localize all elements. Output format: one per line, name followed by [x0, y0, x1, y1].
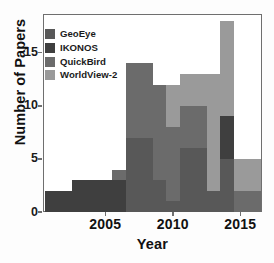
bar-segment-ikonos-2003 [72, 180, 86, 212]
bar-2011 [180, 74, 194, 212]
x-tick-label-2015: 2015 [224, 216, 256, 232]
bar-segment-quickbird-2009 [153, 85, 167, 181]
y-tick-mark-15 [38, 52, 42, 54]
bar-segment-worldview-2-2016 [247, 159, 261, 191]
bar-segment-geoeye-2007 [126, 138, 140, 212]
legend-item-label: IKONOS [60, 43, 98, 53]
bar-2001 [45, 191, 59, 212]
bar-2004 [85, 180, 99, 212]
bar-segment-geoeye-2012 [193, 148, 207, 212]
x-tick-mark-2010 [172, 212, 174, 216]
bar-2003 [72, 180, 86, 212]
x-axis-title: Year [43, 236, 262, 252]
legend-item-worldview-2[interactable]: WorldView-2 [45, 69, 117, 81]
y-tick-mark-10 [38, 105, 42, 107]
legend-item-geoeye[interactable]: GeoEye [45, 28, 117, 40]
x-tick-mark-2015 [240, 212, 242, 216]
legend-swatch-icon [45, 70, 55, 80]
bar-2007 [126, 63, 140, 212]
bar-segment-geoeye-2013 [207, 191, 221, 212]
bar-2015 [234, 159, 248, 212]
legend-item-label: WorldView-2 [60, 70, 117, 80]
bar-segment-geoeye-2014 [220, 159, 234, 212]
bar-segment-quickbird-2011 [180, 106, 194, 148]
bar-segment-ikonos-2005 [99, 180, 113, 212]
bar-segment-worldview-2-2011 [180, 74, 194, 106]
bar-segment-geoeye-2010 [166, 201, 180, 212]
bar-segment-ikonos-2002 [58, 191, 72, 212]
bar-2016 [247, 159, 261, 212]
legend: GeoEyeIKONOSQuickBirdWorldView-2 [45, 28, 117, 83]
legend-swatch-icon [45, 43, 55, 53]
bar-segment-worldview-2-2013 [207, 74, 221, 191]
bar-segment-ikonos-2001 [45, 191, 59, 212]
bar-segment-geoeye-2009 [153, 180, 167, 212]
bar-segment-quickbird-2008 [139, 63, 153, 137]
legend-item-label: QuickBird [60, 57, 106, 67]
x-tick-label-2005: 2005 [89, 216, 121, 232]
bar-segment-ikonos-2006 [112, 180, 126, 212]
bar-segment-geoeye-2008 [139, 138, 153, 212]
y-axis-title: Number of Papers [12, 2, 28, 162]
bar-segment-quickbird-2007 [126, 63, 140, 137]
bar-2005 [99, 180, 113, 212]
y-tick-mark-5 [38, 158, 42, 160]
bar-segment-worldview-2-2012 [193, 74, 207, 106]
bar-segment-quickbird-2010 [166, 127, 180, 201]
x-tick-mark-2005 [105, 212, 107, 216]
bar-2006 [112, 170, 126, 212]
bar-segment-quickbird-2016 [247, 191, 261, 212]
y-tick-label-0: 0 [31, 206, 38, 219]
bar-segment-worldview-2-2010 [166, 85, 180, 127]
bar-2012 [193, 74, 207, 212]
bar-segment-ikonos-2004 [85, 180, 99, 212]
legend-swatch-icon [45, 29, 55, 39]
x-tick-label-2010: 2010 [157, 216, 189, 232]
bar-segment-geoeye-2011 [180, 148, 194, 212]
bar-segment-quickbird-2012 [193, 106, 207, 148]
bar-2009 [153, 85, 167, 212]
y-tick-label-5: 5 [31, 152, 38, 165]
legend-item-ikonos[interactable]: IKONOS [45, 42, 117, 54]
bar-2002 [58, 191, 72, 212]
legend-swatch-icon [45, 57, 55, 67]
legend-item-quickbird[interactable]: QuickBird [45, 55, 117, 67]
bar-segment-quickbird-2006 [112, 170, 126, 181]
y-tick-mark-0 [38, 211, 42, 213]
legend-item-label: GeoEye [60, 29, 96, 39]
bar-segment-ikonos-2014 [220, 116, 234, 158]
bar-2014 [220, 21, 234, 212]
bar-segment-worldview-2-2015 [234, 159, 248, 191]
bar-2013 [207, 74, 221, 212]
bar-2008 [139, 63, 153, 212]
bar-segment-worldview-2-2014 [220, 21, 234, 117]
chart-figure: 051015 Number of Papers Year GeoEyeIKONO… [0, 0, 274, 263]
bar-2010 [166, 85, 180, 212]
bar-segment-quickbird-2015 [234, 191, 248, 212]
